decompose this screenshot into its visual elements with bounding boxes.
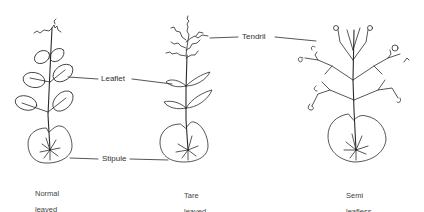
stipule-leader-left	[70, 158, 98, 159]
caption-semi-leafless: Semi leafless	[346, 184, 371, 212]
caption-line: leaved	[184, 208, 206, 212]
plant-drawings	[0, 0, 424, 212]
caption-tare-leaved: Tare leaved	[184, 184, 206, 212]
caption-normal-leaved: Normal leaved	[35, 182, 59, 212]
normal-leaved-plant	[14, 19, 78, 163]
label-leaflet: Leaflet	[101, 74, 125, 83]
label-stipule: Stipule	[102, 154, 126, 163]
semi-leafless-plant	[298, 26, 409, 163]
caption-line: Normal	[35, 190, 59, 198]
caption-line: Semi	[346, 192, 371, 200]
tendril-leader-right	[275, 37, 316, 41]
leaflet-leader-left	[68, 77, 98, 79]
label-tendril: Tendril	[242, 32, 266, 41]
tendril-leader-left	[210, 37, 238, 38]
caption-line: Tare	[184, 192, 206, 200]
stipule-leader-right	[130, 159, 168, 160]
caption-line: leafless	[346, 208, 371, 212]
tare-leaved-plant	[160, 16, 212, 162]
caption-line: leaved	[35, 206, 59, 212]
